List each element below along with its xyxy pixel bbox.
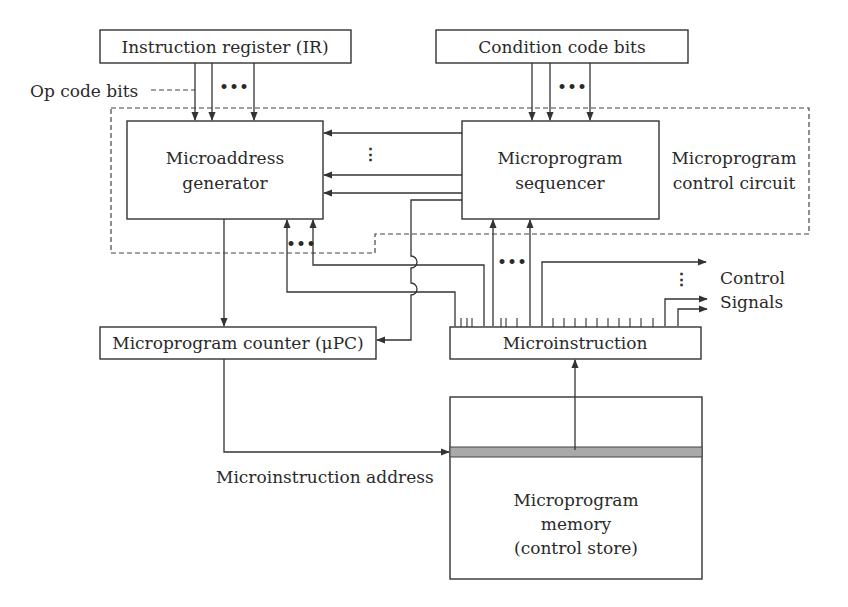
- sequencer-to-generator-arrows: ⋮: [324, 133, 462, 193]
- memory-label-line1: Microprogram: [513, 490, 638, 510]
- instruction-register-block: Instruction register (IR): [100, 30, 351, 63]
- upc-to-memory-address: [224, 359, 449, 452]
- microprogram-counter-block: Microprogram counter (μPC): [100, 327, 376, 359]
- sequencer-line1: Microprogram: [497, 148, 622, 168]
- microaddress-generator-block: Microaddress generator: [127, 121, 323, 219]
- microinstruction-block: Microinstruction: [450, 327, 701, 359]
- microinstruction-address-label: Microinstruction address: [216, 467, 434, 487]
- cc-bits-ellipsis: •••: [557, 77, 587, 97]
- sequencer-generator-ellipsis: ⋮: [362, 144, 379, 164]
- ir-bits-ellipsis: •••: [219, 77, 249, 97]
- memory-label-line2: memory: [541, 514, 612, 534]
- microprogram-memory-block: Microprogram memory (control store): [450, 397, 702, 579]
- control-circuit-label-line2: control circuit: [673, 173, 796, 193]
- sequencer-to-upc-line: [377, 200, 462, 340]
- control-signals-label-line2: Signals: [720, 292, 783, 312]
- microprogram-control-diagram: Instruction register (IR) Condition code…: [0, 0, 848, 607]
- ir-to-generator-arrows: •••: [195, 63, 254, 120]
- control-signals-label-line1: Control: [720, 268, 785, 288]
- condition-code-label: Condition code bits: [478, 37, 645, 57]
- control-circuit-label-line1: Microprogram: [671, 148, 796, 168]
- sequencer-line2: sequencer: [515, 173, 605, 193]
- microinstruction-bit-ticks: [461, 318, 653, 327]
- memory-label-line3: (control store): [514, 538, 638, 558]
- control-signal-out-3: [678, 309, 707, 326]
- micro-sequencer-ellipsis: •••: [497, 252, 527, 272]
- microprogram-counter-label: Microprogram counter (μPC): [112, 333, 363, 353]
- condition-code-block: Condition code bits: [436, 30, 688, 63]
- feedback-to-generator-a: [313, 220, 484, 326]
- feedback-ellipsis: •••: [286, 234, 316, 254]
- cc-to-sequencer-arrows: •••: [532, 63, 590, 120]
- op-code-bits-label: Op code bits: [30, 81, 138, 101]
- microprogram-sequencer-block: Microprogram sequencer: [462, 121, 659, 219]
- microaddress-generator-line2: generator: [182, 173, 268, 193]
- microaddress-generator-line1: Microaddress: [166, 148, 284, 168]
- control-signals-ellipsis: ⋮: [673, 269, 690, 289]
- control-signal-out-2: [665, 299, 707, 326]
- selected-memory-row: [450, 447, 702, 457]
- microinstruction-label: Microinstruction: [503, 333, 648, 353]
- instruction-register-label: Instruction register (IR): [121, 37, 328, 57]
